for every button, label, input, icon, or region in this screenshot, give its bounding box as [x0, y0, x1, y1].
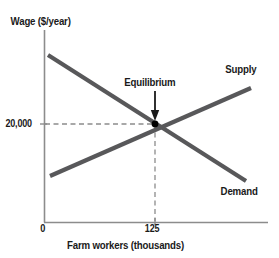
x-tick-label-125: 125: [145, 224, 159, 234]
x-tick-label-0: 0: [40, 224, 45, 234]
supply-demand-chart: Wage ($/year) 20,000 0 125 Farm workers …: [0, 0, 279, 258]
supply-curve-label: Supply: [225, 64, 256, 75]
demand-curve-label: Demand: [221, 186, 258, 197]
x-axis-label: Farm workers (thousands): [67, 240, 184, 251]
y-tick-label-20000: 20,000: [5, 119, 31, 129]
chart-canvas: [0, 0, 279, 258]
y-axis-label: Wage ($/year): [11, 16, 71, 27]
chart-background: [0, 0, 279, 258]
equilibrium-annotation-label: Equilibrium: [124, 77, 175, 88]
equilibrium-point-marker: [152, 121, 159, 128]
